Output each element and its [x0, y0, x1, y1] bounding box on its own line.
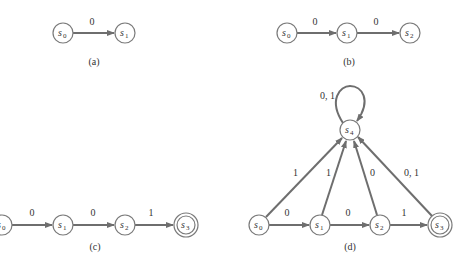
state-s1: s 1	[337, 23, 357, 43]
transition-label: 0	[346, 207, 351, 218]
svg-text:1: 1	[125, 32, 129, 40]
state-s1: s 1	[115, 23, 135, 43]
transition-label: 0, 1	[320, 90, 335, 101]
svg-text:s: s	[0, 219, 1, 230]
transition-s1-s4	[322, 141, 346, 215]
svg-text:s: s	[435, 219, 439, 230]
svg-text:1: 1	[320, 224, 324, 232]
state-s0: s 0	[53, 23, 73, 43]
transition-label: 0	[91, 207, 96, 218]
svg-text:4: 4	[350, 129, 354, 137]
state-s3-final: s 3	[174, 213, 198, 237]
transition-label: 1	[402, 207, 407, 218]
finite-state-machine-diagrams: 0 s 0 s 1 (a) 0 0 s 0 s 1 s	[0, 0, 461, 266]
caption-b: (b)	[343, 56, 355, 68]
svg-text:s: s	[120, 27, 124, 38]
svg-text:s: s	[181, 219, 185, 230]
svg-text:1: 1	[347, 32, 351, 40]
caption-d: (d)	[344, 241, 356, 253]
svg-text:0: 0	[63, 32, 67, 40]
svg-text:2: 2	[380, 224, 384, 232]
state-s0: s 0	[0, 215, 12, 235]
state-s3-final: s 3	[428, 213, 452, 237]
state-s4: s 4	[340, 120, 360, 140]
svg-text:2: 2	[410, 32, 414, 40]
transition-label: 0	[285, 207, 290, 218]
transition-label: 0	[313, 16, 318, 27]
state-s2: s 2	[370, 215, 390, 235]
state-s2: s 2	[400, 23, 420, 43]
svg-text:0: 0	[287, 32, 291, 40]
transition-label: 0	[374, 16, 379, 27]
svg-text:s: s	[58, 219, 62, 230]
transition-label: 0, 1	[404, 167, 419, 178]
svg-text:s: s	[120, 219, 124, 230]
transition-label: 0	[370, 167, 375, 178]
svg-text:s: s	[342, 27, 346, 38]
svg-text:s: s	[282, 27, 286, 38]
state-s1: s 1	[310, 215, 330, 235]
svg-text:0: 0	[259, 224, 263, 232]
panel-d: 0, 1 1 1 0 0, 1 0 0 1 s 4 s 0 s 1	[249, 86, 452, 253]
svg-text:2: 2	[125, 224, 129, 232]
state-s0: s 0	[277, 23, 297, 43]
transition-s2-s4	[354, 141, 377, 215]
state-s2: s 2	[115, 215, 135, 235]
svg-text:s: s	[254, 219, 258, 230]
svg-text:0: 0	[2, 224, 6, 232]
transition-label: 1	[149, 207, 154, 218]
svg-text:s: s	[58, 27, 62, 38]
panel-b: 0 0 s 0 s 1 s 2 (b)	[277, 16, 420, 68]
state-s1: s 1	[53, 215, 73, 235]
transition-label: 1	[293, 167, 298, 178]
panel-a: 0 s 0 s 1 (a)	[53, 16, 135, 68]
svg-text:s: s	[345, 124, 349, 135]
svg-text:s: s	[375, 219, 379, 230]
transition-label: 0	[90, 16, 95, 27]
transition-label: 1	[326, 167, 331, 178]
transition-s4-loop	[336, 86, 365, 123]
svg-text:3: 3	[186, 224, 190, 232]
caption-a: (a)	[88, 56, 99, 68]
transition-label: 0	[30, 207, 35, 218]
state-s0: s 0	[249, 215, 269, 235]
svg-text:3: 3	[440, 224, 444, 232]
svg-text:s: s	[315, 219, 319, 230]
svg-text:1: 1	[63, 224, 67, 232]
svg-text:s: s	[405, 27, 409, 38]
panel-c: 0 0 1 s 0 s 1 s 2 s 3 (c)	[0, 207, 198, 253]
caption-c: (c)	[89, 241, 100, 253]
